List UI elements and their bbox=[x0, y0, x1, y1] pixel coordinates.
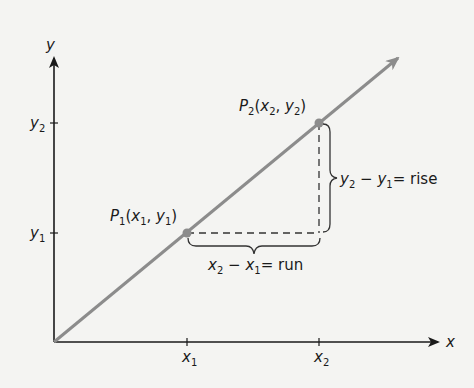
p2-label: P2(x2, y2) bbox=[239, 97, 306, 117]
point-p1 bbox=[183, 229, 192, 238]
x1-tick-label: x1 bbox=[181, 348, 197, 368]
slope-diagram: x y x1 x2 y1 y2 P1(x1, y1) P2(x2, y2) x2… bbox=[0, 0, 474, 388]
y-axis-label: y bbox=[45, 36, 56, 54]
x2-tick-label: x2 bbox=[313, 348, 329, 368]
run-label: x2 − x1= run bbox=[207, 256, 303, 276]
y1-tick-label: y1 bbox=[29, 224, 45, 244]
x-axis-label: x bbox=[445, 333, 455, 351]
rise-label: y2 − y1= rise bbox=[339, 170, 437, 190]
p1-label: P1(x1, y1) bbox=[110, 207, 177, 227]
point-p2 bbox=[315, 119, 324, 128]
sloped-line bbox=[54, 58, 398, 342]
run-brace bbox=[188, 238, 320, 254]
y2-tick-label: y2 bbox=[29, 114, 45, 134]
rise-brace bbox=[323, 124, 337, 232]
